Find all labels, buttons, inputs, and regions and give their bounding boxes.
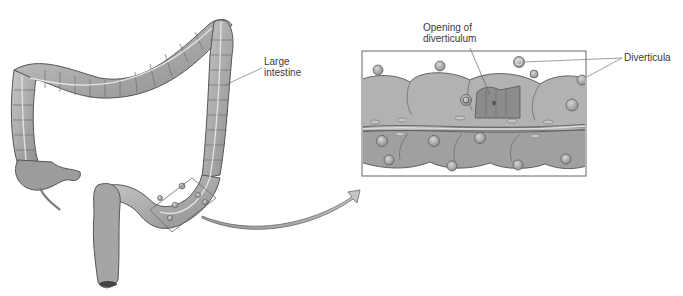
label-opening-of-diverticulum: Opening of diverticulum	[423, 22, 476, 44]
diagram-canvas	[0, 0, 683, 296]
diverticulum-opening	[492, 101, 496, 106]
label-line-1: Opening of	[423, 22, 476, 33]
label-large-intestine: Large intestine	[264, 56, 301, 78]
magnify-arrow	[202, 190, 360, 229]
label-line-2: diverticulum	[423, 33, 476, 44]
leader-line-diverticula-2	[585, 58, 622, 78]
label-diverticula: Diverticula	[624, 52, 671, 63]
inset-magnified-view	[360, 51, 590, 176]
label-line-1: Large	[264, 56, 301, 67]
label-line-2: intestine	[264, 67, 301, 78]
cutaway-window	[475, 86, 520, 118]
large-intestine-illustration	[11, 19, 233, 287]
anus-opening	[99, 281, 117, 287]
